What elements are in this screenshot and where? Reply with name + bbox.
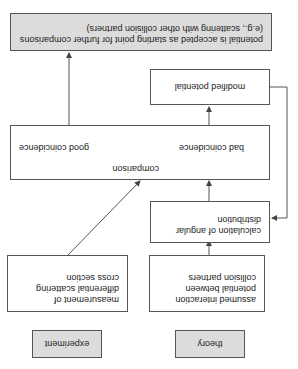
measurement-box: measurement of differential scattering c… <box>7 255 128 312</box>
good-coincidence: good coincidence <box>19 142 89 153</box>
comparison-title: comparison <box>112 163 159 174</box>
comparison-box: comparison bad coincidence good coincide… <box>10 125 270 180</box>
calculation-box: calculation of angular distribution <box>150 201 270 243</box>
assumed-potential-box: assumed interaction potential between co… <box>149 255 265 312</box>
experiment-label: experiment <box>32 330 102 358</box>
theory-label: theory <box>175 330 245 358</box>
accepted-potential-box: potential is accepted as starting point … <box>10 13 272 51</box>
bad-coincidence: bad coincidence <box>179 142 244 153</box>
flow-diagram: theory experiment assumed interaction po… <box>0 0 298 369</box>
connectors <box>0 0 298 369</box>
modified-potential-box: modified potential <box>150 69 270 105</box>
